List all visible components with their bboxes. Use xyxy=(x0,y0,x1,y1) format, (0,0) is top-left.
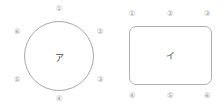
rectangle-callout-2: ② xyxy=(167,10,174,18)
rectangle-callout-6: ⑥ xyxy=(204,92,211,100)
rectangle-callout-3: ③ xyxy=(204,10,211,18)
circle-callout-5: ⑤ xyxy=(14,76,21,84)
rectangle-callout-5: ⑤ xyxy=(167,92,174,100)
rectangle-callout-4: ④ xyxy=(129,92,136,100)
figure-rectangle-i: イ ① ② ③ ④ ⑤ ⑥ xyxy=(111,0,223,108)
circle-center-label: ア xyxy=(55,54,64,63)
rectangle-center-label: イ xyxy=(166,52,175,61)
circle-callout-4: ④ xyxy=(56,95,63,103)
circle-callout-1: ① xyxy=(56,5,63,13)
figure-circle-a: ア ① ② ③ ④ ⑤ ⑥ xyxy=(0,0,111,108)
circle-callout-2: ② xyxy=(97,28,104,36)
circle-callout-3: ③ xyxy=(97,76,104,84)
circle-callout-6: ⑥ xyxy=(14,28,21,36)
rectangle-callout-1: ① xyxy=(129,10,136,18)
